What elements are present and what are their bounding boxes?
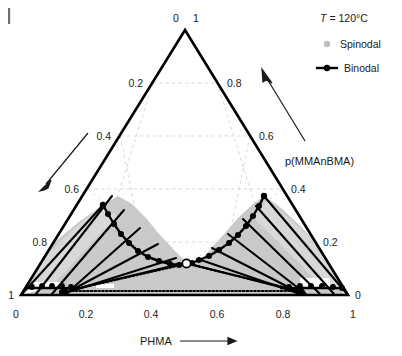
right-axis-title: p(MMAnBMA) [285,155,354,167]
bottom-right-corner-upper-label: 0 [355,289,361,301]
plait-point-marker [182,259,190,267]
right-axis-tick-0.4: 0.4 [291,183,306,195]
bottom-axis-tick-1: 1 [350,308,356,320]
right-axis-tick-0.6: 0.6 [259,130,274,142]
legend: T= 120°C Spinodal Binodal [316,12,381,74]
bottom-axis-tick-0.8: 0.8 [276,308,291,320]
right-axis-tick-0.2: 0.2 [323,236,338,248]
left-axis-tick-0.6: 0.6 [64,183,79,195]
legend-binodal-label: Binodal [344,62,379,74]
legend-temperature-symbol: T [320,12,328,24]
page-corner-mark [8,8,10,24]
legend-temperature: T= 120°C [320,12,368,24]
apex-label-right: 1 [193,12,199,24]
bottom-axis-tick-0.4: 0.4 [144,308,159,320]
apex-label-left: 0 [173,12,179,24]
bottom-left-corner-upper-label: 1 [8,289,14,301]
left-axis-tick-0.2: 0.2 [128,77,143,89]
left-axis-tick-0.8: 0.8 [32,236,47,248]
bottom-axis-title: PHMA [140,335,172,347]
bottom-axis-tick-0.2: 0.2 [79,308,94,320]
right-axis-direction-arrow-head [262,69,272,83]
legend-binodal-swatch [316,65,338,71]
legend-spinodal-label: Spinodal [340,38,381,50]
right-axis-tick-0.8: 0.8 [227,77,242,89]
phase-diagram-canvas: 0 1 0.2 0.4 0.6 0.8 0.8 0.6 0.4 0.2 1 0 … [0,0,402,356]
left-axis-tick-0.4: 0.4 [96,130,111,142]
legend-temperature-value: = 120°C [329,12,368,24]
left-axis-direction-arrow-shaft [46,133,88,184]
bottom-axis-tick-0.6: 0.6 [210,308,225,320]
left-axis-direction-arrow-head [40,180,51,191]
bottom-axis-direction-arrow [180,338,236,345]
legend-spinodal-swatch [324,41,330,47]
bottom-axis-tick-0: 0 [13,308,19,320]
